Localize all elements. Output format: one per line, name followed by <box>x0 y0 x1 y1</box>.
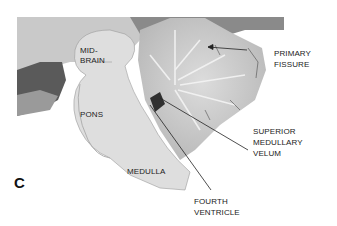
label-midbrain-line2: BRAIN <box>80 56 105 66</box>
label-superior-medullary-velum-line2: MEDULLARY <box>253 138 303 148</box>
label-midbrain-line1: MID- <box>80 46 98 56</box>
label-pons: PONS <box>80 110 103 120</box>
label-primary-fissure-line1: PRIMARY <box>274 49 311 59</box>
brain-photo <box>0 0 337 226</box>
label-medulla: MEDULLA <box>127 167 166 177</box>
label-superior-medullary-velum-line3: VELUM <box>253 149 281 159</box>
label-superior-medullary-velum-line1: SUPERIOR <box>253 127 296 137</box>
anatomy-figure: MID- BRAIN PONS MEDULLA PRIMARY FISSURE … <box>0 0 337 226</box>
label-primary-fissure-line2: FISSURE <box>274 60 309 70</box>
label-fourth-ventricle-line2: VENTRICLE <box>194 208 240 218</box>
label-fourth-ventricle-line1: FOURTH <box>194 197 228 207</box>
panel-letter: C <box>14 174 25 191</box>
